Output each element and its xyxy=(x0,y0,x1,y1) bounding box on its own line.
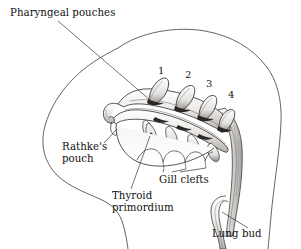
leader-gill-clefts-a xyxy=(163,169,164,172)
pharyngeal-pouches-figure: Pharyngeal pouches Rathke'spouch Thyroid… xyxy=(0,0,301,249)
pouch-number-1: 1 xyxy=(158,66,164,76)
pouch-number-2: 2 xyxy=(185,70,191,80)
label-gill-clefts: Gill clefts xyxy=(159,174,209,186)
label-pharyngeal-pouches: Pharyngeal pouches xyxy=(10,7,115,19)
leader-pharyngeal-pouches xyxy=(58,21,150,100)
label-rathkes-pouch-line1: Rathke's xyxy=(62,141,107,152)
label-thyroid-primordium: Thyroidprimordium xyxy=(112,190,174,213)
label-thyroid-primordium-line1: Thyroid xyxy=(112,190,152,201)
lung-bud-structure xyxy=(211,196,228,249)
label-thyroid-primordium-line2: primordium xyxy=(112,202,174,213)
pouch-number-4: 4 xyxy=(228,90,234,100)
pouch-number-3: 3 xyxy=(206,79,212,89)
label-rathkes-pouch: Rathke'spouch xyxy=(62,141,107,164)
label-rathkes-pouch-line2: pouch xyxy=(62,153,94,164)
leader-gill-clefts-c xyxy=(180,168,206,172)
label-lung-bud: Lung bud xyxy=(212,228,262,240)
